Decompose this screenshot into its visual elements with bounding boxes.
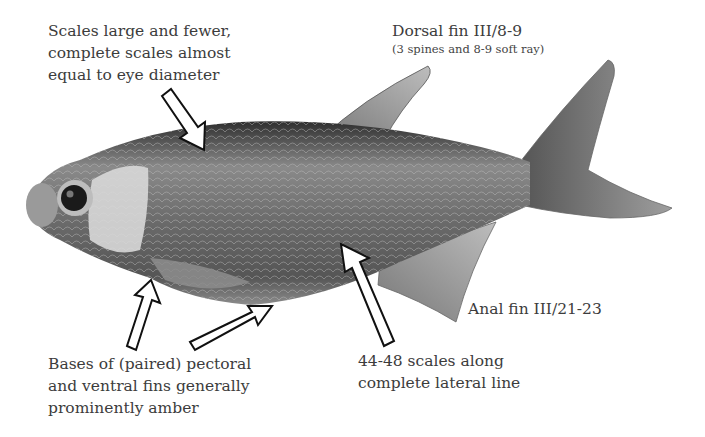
annotation-dorsal-subtitle: (3 spines and 8-9 soft ray) [392,42,544,57]
snout [26,183,58,227]
annotation-fin-bases: Bases of (paired) pectoral and ventral f… [48,353,251,419]
annotation-anal-fin: Anal fin III/21-23 [468,298,602,320]
annotation-dorsal-fin: Dorsal fin III/8-9 (3 spines and 8-9 sof… [392,20,544,57]
annotation-lateral-line-text: complete lateral line [358,372,520,394]
annotation-scales-line: Scales large and fewer, [48,20,231,42]
annotation-fin-bases-line: prominently amber [48,397,251,419]
annotation-scales: Scales large and fewer, complete scales … [48,20,231,86]
annotation-fin-bases-line: and ventral fins generally [48,375,251,397]
annotation-anal-title: Anal fin III/21-23 [468,298,602,320]
caudal-fin [520,60,672,218]
annotation-lateral-line: 44-48 scales along complete lateral line [358,350,520,394]
arrow-pectoral [127,280,160,350]
annotation-scales-line: equal to eye diameter [48,64,231,86]
annotation-fin-bases-line: Bases of (paired) pectoral [48,353,251,375]
annotation-lateral-line-text: 44-48 scales along [358,350,520,372]
annotation-scales-line: complete scales almost [48,42,231,64]
arrow-ventral [190,306,272,350]
operculum [88,166,148,253]
annotation-dorsal-title: Dorsal fin III/8-9 [392,20,544,42]
